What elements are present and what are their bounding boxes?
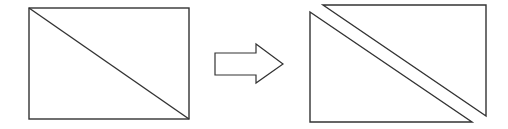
rectangle-diagonal <box>29 8 189 119</box>
lower-left-triangle <box>310 12 472 122</box>
left-figure <box>29 8 189 119</box>
upper-right-triangle <box>323 5 486 116</box>
diagram-canvas <box>0 0 508 129</box>
right-figure <box>310 5 486 122</box>
right-arrow-icon <box>215 44 283 83</box>
